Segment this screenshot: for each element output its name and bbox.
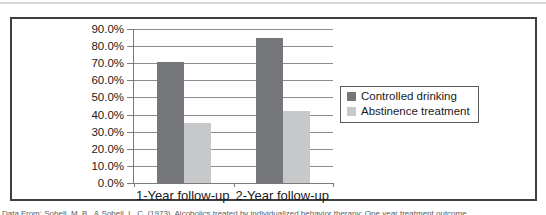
y-tick — [127, 132, 134, 133]
y-tick — [127, 63, 134, 64]
chart-frame: 90.0%80.0%70.0%60.0%50.0%40.0%30.0%20.0%… — [10, 17, 537, 201]
y-tick-label: 30.0% — [12, 126, 124, 138]
x-category-label: 2-Year follow-up — [236, 188, 329, 203]
y-tick — [127, 97, 134, 98]
bar-abstinence-treatment — [184, 123, 211, 183]
legend-swatch — [347, 92, 356, 101]
x-tick — [134, 183, 135, 187]
y-tick-label: 10.0% — [12, 160, 124, 172]
y-axis-labels: 90.0%80.0%70.0%60.0%50.0%40.0%30.0%20.0%… — [12, 29, 124, 183]
y-tick — [127, 80, 134, 81]
legend-label: Controlled drinking — [361, 90, 457, 103]
bar-controlled-drinking — [157, 62, 184, 183]
y-tick-label: 60.0% — [12, 74, 124, 86]
x-tick — [333, 183, 334, 187]
gridline — [134, 29, 333, 30]
bar-controlled-drinking — [256, 38, 283, 183]
y-tick — [127, 183, 134, 184]
legend-label: Abstinence treatment — [361, 105, 470, 118]
caption: Data From: Sobell, M. B., & Sobell, L. C… — [2, 209, 469, 215]
y-tick-label: 20.0% — [12, 143, 124, 155]
legend-swatch — [347, 107, 356, 116]
legend-item: Controlled drinking — [347, 90, 470, 103]
x-tick — [234, 183, 235, 187]
y-tick — [127, 149, 134, 150]
x-category-label: 1-Year follow-up — [136, 188, 229, 203]
y-tick-label: 70.0% — [12, 57, 124, 69]
y-tick-label: 90.0% — [12, 23, 124, 35]
y-tick-label: 80.0% — [12, 40, 124, 52]
y-tick — [127, 46, 134, 47]
x-axis-labels: 1-Year follow-up2-Year follow-up — [133, 188, 332, 206]
legend-item: Abstinence treatment — [347, 105, 470, 118]
y-tick-label: 0.0% — [12, 177, 124, 189]
plot-area — [133, 29, 333, 184]
y-tick-label: 50.0% — [12, 91, 124, 103]
gridline — [134, 46, 333, 47]
y-tick — [127, 115, 134, 116]
y-tick-label: 40.0% — [12, 109, 124, 121]
legend: Controlled drinkingAbstinence treatment — [340, 86, 479, 123]
y-tick — [127, 29, 134, 30]
bar-abstinence-treatment — [283, 111, 310, 183]
y-tick — [127, 166, 134, 167]
top-divider — [0, 2, 546, 4]
